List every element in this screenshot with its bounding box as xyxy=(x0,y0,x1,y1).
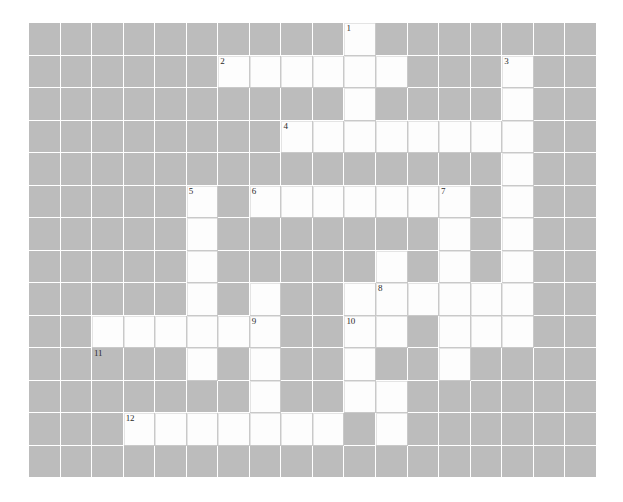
crossword-cell-block xyxy=(439,88,471,121)
clue-number: 7 xyxy=(441,186,445,197)
crossword-cell-block xyxy=(61,381,93,414)
crossword-cell-open[interactable]: 9 xyxy=(250,316,282,349)
crossword-cell-open[interactable] xyxy=(187,283,219,316)
crossword-cell-open[interactable] xyxy=(218,316,250,349)
crossword-cell-open[interactable]: 10 xyxy=(344,316,376,349)
crossword-cell-block xyxy=(155,153,187,186)
crossword-cell-open[interactable] xyxy=(376,381,408,414)
crossword-cell-block xyxy=(439,153,471,186)
crossword-cell-open[interactable]: 7 xyxy=(439,186,471,219)
crossword-cell-block xyxy=(61,283,93,316)
crossword-cell-block xyxy=(471,348,503,381)
crossword-cell-open[interactable]: 3 xyxy=(502,56,534,89)
crossword-cell-block xyxy=(218,283,250,316)
crossword-cell-block xyxy=(29,348,61,381)
crossword-cell-block xyxy=(29,283,61,316)
crossword-cell-block xyxy=(281,381,313,414)
crossword-cell-open[interactable] xyxy=(376,316,408,349)
crossword-cell-open[interactable] xyxy=(502,121,534,154)
crossword-cell-open[interactable] xyxy=(344,348,376,381)
crossword-cell-block xyxy=(124,153,156,186)
crossword-cell-open[interactable] xyxy=(502,283,534,316)
crossword-cell-open[interactable] xyxy=(471,283,503,316)
crossword-cell-block xyxy=(124,88,156,121)
crossword-cell-open[interactable] xyxy=(250,56,282,89)
crossword-cell-block xyxy=(187,446,219,479)
crossword-cell-block xyxy=(471,381,503,414)
crossword-cell-open[interactable] xyxy=(344,283,376,316)
crossword-cell-open[interactable] xyxy=(376,186,408,219)
crossword-cell-open[interactable]: 12 xyxy=(124,413,156,446)
crossword-cell-block xyxy=(187,153,219,186)
crossword-cell-open[interactable] xyxy=(471,121,503,154)
crossword-cell-block xyxy=(281,88,313,121)
crossword-cell-open[interactable]: 8 xyxy=(376,283,408,316)
crossword-cell-block: 11 xyxy=(92,348,124,381)
crossword-cell-open[interactable] xyxy=(376,413,408,446)
crossword-cell-open[interactable] xyxy=(502,88,534,121)
crossword-cell-open[interactable] xyxy=(187,348,219,381)
crossword-cell-open[interactable] xyxy=(502,218,534,251)
crossword-cell-block xyxy=(408,381,440,414)
crossword-cell-open[interactable] xyxy=(313,121,345,154)
crossword-cell-open[interactable] xyxy=(408,186,440,219)
crossword-cell-open[interactable] xyxy=(187,218,219,251)
crossword-cell-open[interactable] xyxy=(344,186,376,219)
crossword-cell-open[interactable] xyxy=(187,251,219,284)
crossword-cell-open[interactable]: 6 xyxy=(250,186,282,219)
crossword-cell-open[interactable] xyxy=(502,153,534,186)
crossword-cell-block xyxy=(502,446,534,479)
crossword-cell-open[interactable] xyxy=(155,316,187,349)
crossword-cell-block xyxy=(439,56,471,89)
crossword-cell-open[interactable] xyxy=(344,381,376,414)
crossword-cell-block xyxy=(187,88,219,121)
crossword-cell-open[interactable] xyxy=(502,316,534,349)
crossword-cell-open[interactable] xyxy=(376,56,408,89)
crossword-cell-open[interactable] xyxy=(439,348,471,381)
crossword-cell-block xyxy=(313,251,345,284)
crossword-cell-open[interactable] xyxy=(281,413,313,446)
crossword-cell-open[interactable] xyxy=(344,88,376,121)
crossword-cell-open[interactable] xyxy=(281,56,313,89)
clue-number: 5 xyxy=(189,186,193,197)
crossword-cell-open[interactable] xyxy=(155,413,187,446)
crossword-cell-open[interactable] xyxy=(408,121,440,154)
crossword-cell-open[interactable]: 5 xyxy=(187,186,219,219)
crossword-cell-open[interactable] xyxy=(313,413,345,446)
crossword-cell-open[interactable] xyxy=(187,413,219,446)
crossword-cell-open[interactable] xyxy=(344,121,376,154)
crossword-cell-open[interactable] xyxy=(439,283,471,316)
crossword-cell-open[interactable]: 4 xyxy=(281,121,313,154)
crossword-cell-block xyxy=(250,121,282,154)
crossword-cell-open[interactable] xyxy=(344,56,376,89)
crossword-cell-open[interactable] xyxy=(281,186,313,219)
crossword-cell-open[interactable] xyxy=(502,251,534,284)
crossword-cell-block xyxy=(344,413,376,446)
crossword-cell-block xyxy=(155,381,187,414)
crossword-cell-open[interactable] xyxy=(439,316,471,349)
crossword-cell-open[interactable] xyxy=(408,283,440,316)
crossword-cell-open[interactable] xyxy=(124,316,156,349)
crossword-cell-open[interactable]: 2 xyxy=(218,56,250,89)
crossword-cell-block xyxy=(218,381,250,414)
crossword-grid[interactable]: 123456789101112 xyxy=(29,23,597,478)
crossword-cell-open[interactable] xyxy=(471,316,503,349)
crossword-cell-open[interactable] xyxy=(250,413,282,446)
crossword-cell-open[interactable] xyxy=(187,316,219,349)
crossword-cell-open[interactable] xyxy=(502,186,534,219)
crossword-cell-open[interactable] xyxy=(218,413,250,446)
crossword-cell-open[interactable] xyxy=(376,121,408,154)
crossword-cell-open[interactable] xyxy=(250,283,282,316)
crossword-cell-block xyxy=(408,413,440,446)
crossword-cell-block xyxy=(29,121,61,154)
crossword-cell-open[interactable] xyxy=(250,348,282,381)
crossword-cell-open[interactable] xyxy=(376,251,408,284)
crossword-cell-open[interactable]: 1 xyxy=(344,23,376,56)
crossword-cell-open[interactable] xyxy=(92,316,124,349)
crossword-cell-open[interactable] xyxy=(439,251,471,284)
crossword-cell-open[interactable] xyxy=(439,218,471,251)
crossword-cell-open[interactable] xyxy=(250,381,282,414)
crossword-cell-open[interactable] xyxy=(313,186,345,219)
crossword-cell-open[interactable] xyxy=(313,56,345,89)
crossword-cell-open[interactable] xyxy=(439,121,471,154)
